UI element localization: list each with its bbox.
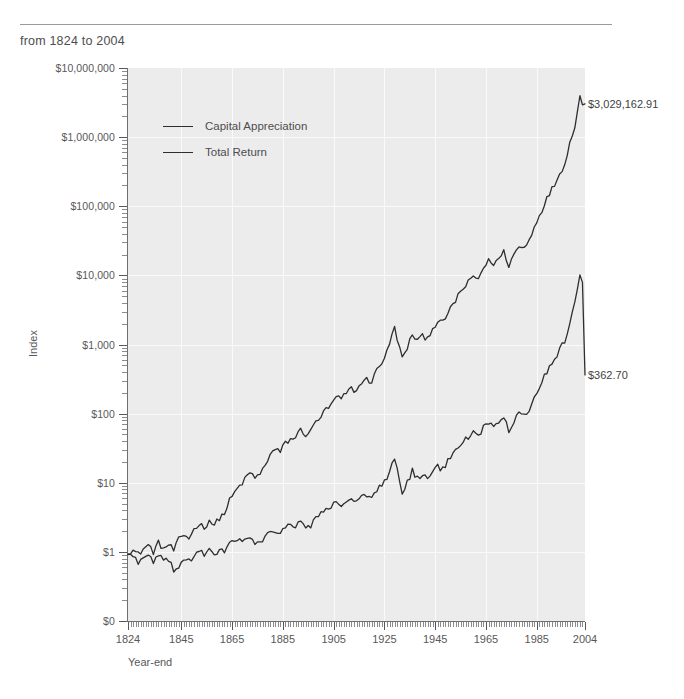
x-tick-minor — [423, 622, 424, 627]
y-tick-minor — [122, 279, 127, 280]
x-tick-minor — [321, 622, 322, 627]
x-tick-label: 1965 — [474, 633, 498, 645]
y-tick-minor — [122, 573, 127, 574]
x-tick-minor — [247, 622, 248, 627]
x-tick-minor — [463, 622, 464, 627]
y-tick-minor — [122, 493, 127, 494]
x-tick-minor — [296, 622, 297, 627]
x-tick-minor — [527, 622, 528, 627]
x-tick-minor — [344, 622, 345, 627]
x-tick-minor — [331, 622, 332, 627]
x-tick-minor — [275, 622, 276, 627]
x-tick-minor — [478, 622, 479, 627]
y-tick-label: $10 — [0, 477, 115, 489]
x-tick-minor — [542, 622, 543, 627]
x-tick-minor — [466, 622, 467, 627]
x-tick-minor — [339, 622, 340, 627]
x-tick-minor — [336, 622, 337, 627]
y-tick-minor — [122, 324, 127, 325]
x-tick-minor — [499, 622, 500, 627]
chart-page: from 1824 to 2004 $0$1$10$100$1,000$10,0… — [0, 0, 684, 699]
x-tick-minor — [255, 622, 256, 627]
y-tick-minor — [122, 242, 127, 243]
y-tick-minor — [122, 348, 127, 349]
x-tick-minor — [501, 622, 502, 627]
x-tick-minor — [212, 622, 213, 627]
x-tick-minor — [306, 622, 307, 627]
x-tick-minor — [169, 622, 170, 627]
x-tick-minor — [245, 622, 246, 627]
x-tick-minor — [570, 622, 571, 627]
x-tick-minor — [265, 622, 266, 627]
x-tick-minor — [141, 622, 142, 627]
y-tick-major — [119, 345, 127, 346]
y-tick-label: $0 — [0, 615, 115, 627]
x-tick-label: 1925 — [372, 633, 396, 645]
y-tick-major — [119, 621, 127, 622]
x-tick-minor — [562, 622, 563, 627]
y-tick-minor — [122, 450, 127, 451]
x-tick-minor — [260, 622, 261, 627]
x-tick-minor — [397, 622, 398, 627]
x-tick-minor — [285, 622, 286, 627]
y-axis-title: Index — [27, 330, 39, 357]
series-lines — [128, 68, 585, 621]
y-tick-minor — [122, 531, 127, 532]
x-tick-minor — [516, 622, 517, 627]
y-tick-minor — [122, 360, 127, 361]
y-tick-label: $10,000,000 — [0, 62, 115, 74]
y-tick-minor — [122, 213, 127, 214]
x-tick-minor — [443, 622, 444, 627]
y-tick-minor — [122, 504, 127, 505]
x-tick-minor — [252, 622, 253, 627]
x-tick-minor — [161, 622, 162, 627]
x-tick-minor — [214, 622, 215, 627]
x-tick-minor — [153, 622, 154, 627]
y-tick-minor — [122, 79, 127, 80]
x-tick-minor — [400, 622, 401, 627]
y-tick-minor — [122, 209, 127, 210]
y-tick-minor — [122, 173, 127, 174]
y-tick-minor — [122, 441, 127, 442]
x-tick-minor — [481, 622, 482, 627]
x-tick-minor — [572, 622, 573, 627]
y-tick-label: $100,000 — [0, 200, 115, 212]
x-tick-minor — [395, 622, 396, 627]
x-tick-minor — [313, 622, 314, 627]
x-tick-minor — [227, 622, 228, 627]
annotation-capital-appreciation-value: $3,029,162.91 — [588, 98, 658, 110]
y-tick-minor — [122, 75, 127, 76]
y-tick-major — [119, 552, 127, 553]
y-tick-minor — [122, 510, 127, 511]
x-tick-minor — [580, 622, 581, 627]
x-tick-minor — [189, 622, 190, 627]
y-tick-minor — [122, 559, 127, 560]
y-tick-minor — [122, 489, 127, 490]
y-tick-minor — [122, 217, 127, 218]
y-tick-minor — [122, 381, 127, 382]
x-tick-minor — [387, 622, 388, 627]
x-tick-minor — [410, 622, 411, 627]
y-tick-minor — [122, 351, 127, 352]
y-tick-minor — [122, 158, 127, 159]
x-tick-minor — [222, 622, 223, 627]
y-tick-minor — [122, 434, 127, 435]
x-tick-minor — [136, 622, 137, 627]
x-tick-minor — [514, 622, 515, 627]
x-tick-label: 1905 — [321, 633, 345, 645]
x-tick-minor — [217, 622, 218, 627]
x-tick-minor — [453, 622, 454, 627]
y-tick-minor — [122, 234, 127, 235]
y-tick-minor — [122, 486, 127, 487]
x-tick-minor — [191, 622, 192, 627]
x-tick-minor — [496, 622, 497, 627]
x-tick-minor — [420, 622, 421, 627]
annotation-total-return-value: $362.70 — [588, 369, 628, 381]
x-tick-minor — [539, 622, 540, 627]
x-tick-major — [334, 622, 335, 630]
x-tick-minor — [308, 622, 309, 627]
x-tick-minor — [250, 622, 251, 627]
x-tick-minor — [354, 622, 355, 627]
x-tick-minor — [151, 622, 152, 627]
x-tick-minor — [131, 622, 132, 627]
